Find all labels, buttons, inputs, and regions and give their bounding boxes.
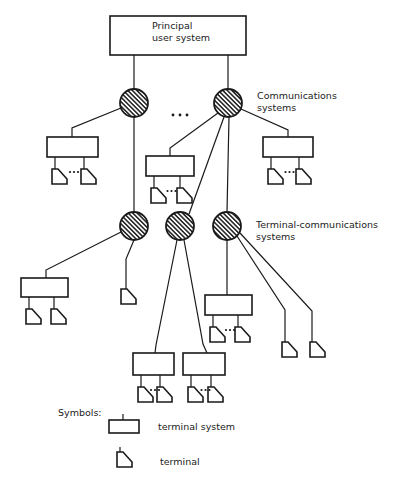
terminal-system-box (205, 295, 252, 315)
terminal-communications-systems-label: Terminal-communications systems (256, 219, 378, 243)
principal-line-1: Principal (152, 20, 210, 32)
terminal-icon (282, 342, 297, 357)
terminal-icon (310, 342, 325, 357)
communications-line-1: Communications (257, 90, 337, 102)
terminal-communications-node-icon (213, 212, 241, 240)
terminal-icon (121, 289, 136, 304)
terminal-icon (52, 169, 67, 184)
terminal-icon (26, 309, 41, 324)
symbols-heading: Symbols: (58, 407, 102, 419)
terminal-communications-node-icon (120, 212, 148, 240)
terminal-communications-line-1: Terminal-communications (256, 219, 378, 231)
legend-terminal-system-symbol (109, 414, 139, 433)
communications-node-icon (120, 89, 148, 117)
terminal-system (263, 137, 313, 184)
terminal-icon (210, 327, 225, 342)
legend-terminal-symbol-icon (117, 447, 132, 467)
terminal-system (47, 137, 98, 184)
terminal-system (183, 353, 225, 402)
communications-node-icon (214, 89, 242, 117)
terminal-system-box (263, 137, 313, 157)
terminal-system (21, 278, 68, 324)
terminal-system (133, 353, 174, 402)
ellipsis-dots (172, 114, 189, 117)
terminal-icon (268, 169, 283, 184)
terminal-icon (51, 309, 66, 324)
terminal-system-box (47, 137, 98, 157)
terminal-icon (177, 188, 192, 203)
terminal-systems (21, 137, 313, 402)
terminal-icon (235, 327, 250, 342)
principal-user-system-label: Principal user system (152, 20, 210, 44)
communications-systems-label: Communications systems (257, 90, 337, 114)
terminal-icon (296, 169, 311, 184)
terminal-system-box (183, 353, 225, 375)
legend-terminal-system-label: terminal system (158, 421, 235, 433)
terminal-system-box (146, 156, 194, 176)
terminal-system (205, 295, 252, 342)
terminal-icon (151, 188, 166, 203)
legend-terminal-label: terminal (160, 456, 200, 468)
terminal-system (146, 156, 194, 203)
terminal-icon (81, 169, 96, 184)
principal-line-2: user system (152, 32, 210, 44)
terminal-communications-line-2: systems (256, 231, 378, 243)
terminal-system-box (21, 278, 68, 297)
terminal-system-box (133, 353, 174, 375)
communications-line-2: systems (257, 102, 337, 114)
terminal-communications-node-icon (166, 212, 194, 240)
